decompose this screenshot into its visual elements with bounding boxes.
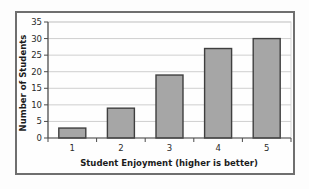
bar-chart-svg: 0510152025303512345 Student Enjoyment (h… <box>17 13 293 173</box>
y-tick-label: 25 <box>31 50 42 60</box>
chart-frame: 0510152025303512345 Student Enjoyment (h… <box>15 11 295 175</box>
y-tick-label: 15 <box>31 83 42 93</box>
y-axis-title: Number of Students <box>18 35 28 132</box>
screenshot-root: 0510152025303512345 Student Enjoyment (h… <box>0 0 309 189</box>
y-tick-label: 0 <box>37 133 42 143</box>
chart-generated-layer: 0510152025303512345 <box>31 17 291 153</box>
bar-2 <box>107 108 134 138</box>
y-tick-label: 10 <box>31 100 42 110</box>
x-tick-label: 4 <box>215 143 220 153</box>
y-tick-label: 35 <box>31 17 42 27</box>
y-tick-label: 20 <box>31 67 42 77</box>
bar-4 <box>205 49 232 138</box>
bar-3 <box>156 75 183 138</box>
x-tick-label: 5 <box>264 143 269 153</box>
bar-5 <box>253 39 280 138</box>
y-tick-label: 30 <box>31 34 42 44</box>
x-tick-label: 2 <box>118 143 123 153</box>
y-tick-label: 5 <box>37 116 42 126</box>
bar-1 <box>59 128 86 138</box>
x-tick-label: 1 <box>70 143 75 153</box>
x-tick-label: 3 <box>167 143 172 153</box>
x-axis-title: Student Enjoyment (higher is better) <box>80 158 258 168</box>
